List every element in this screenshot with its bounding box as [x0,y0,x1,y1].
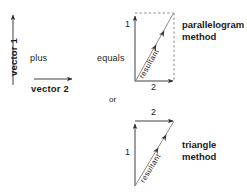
vector2-label: vector 2 [31,84,69,94]
triangle-vertical-side-label: 1 [125,148,130,157]
parallelogram-horizontal-side-label: 2 [151,83,156,92]
vector-addition-diagram: vector 1 plus vector 2 equals or 1 2 res… [0,0,247,193]
equals-label: equals [97,54,125,63]
or-label: or [109,96,116,104]
parallelogram-vertical-side-label: 1 [125,20,130,29]
triangle-method-label: triangle method [182,139,216,163]
parallelogram-method-line1: parallelogram [182,19,244,31]
triangle-method-line1: triangle [182,139,216,151]
vector1-label: vector 1 [9,38,19,76]
triangle-method-line2: method [182,151,216,163]
parallelogram-method-label: parallelogram method [182,19,244,43]
triangle-horizontal-side-label: 2 [151,108,156,117]
parallelogram-method-line2: method [182,31,244,43]
plus-label: plus [30,54,47,63]
